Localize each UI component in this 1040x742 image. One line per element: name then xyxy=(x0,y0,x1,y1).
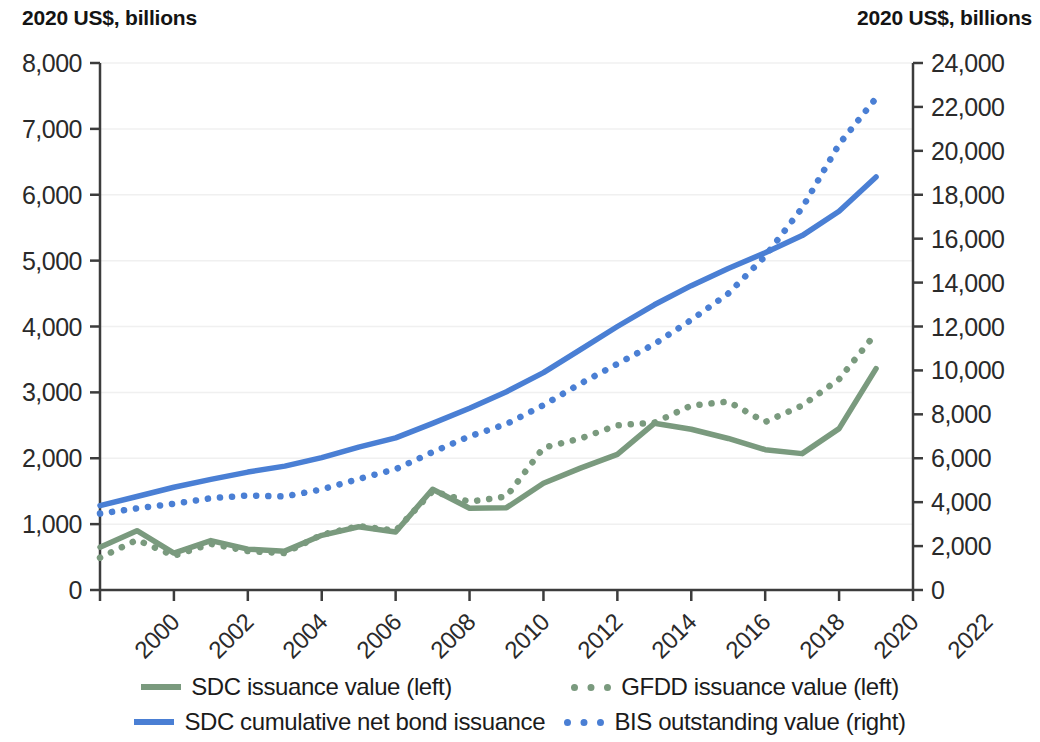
legend-row-2: SDC cumulative net bond issuance BIS out… xyxy=(134,708,905,736)
series-line-2 xyxy=(100,177,876,506)
series-lines xyxy=(100,98,876,558)
series-line-3 xyxy=(100,98,876,513)
legend-item-sdc-cumulative: SDC cumulative net bond issuance xyxy=(134,708,564,736)
legend-item-bis-outstanding: BIS outstanding value (right) xyxy=(564,708,905,736)
gridlines xyxy=(100,63,913,590)
plot-area xyxy=(0,0,1040,742)
legend-label-bis-outstanding: BIS outstanding value (right) xyxy=(614,708,905,736)
legend-swatch-gfdd-issuance xyxy=(571,684,611,691)
legend-label-sdc-issuance: SDC issuance value (left) xyxy=(191,673,452,701)
chart-legend: SDC issuance value (left) GFDD issuance … xyxy=(0,673,1040,736)
legend-item-sdc-issuance: SDC issuance value (left) xyxy=(141,673,571,701)
legend-item-gfdd-issuance: GFDD issuance value (left) xyxy=(571,673,899,701)
dual-axis-line-chart: 2020 US$, billions 2020 US$, billions 01… xyxy=(0,0,1040,742)
legend-swatch-bis-outstanding xyxy=(564,719,604,726)
legend-label-gfdd-issuance: GFDD issuance value (left) xyxy=(621,673,899,701)
legend-row-1: SDC issuance value (left) GFDD issuance … xyxy=(141,673,899,701)
legend-swatch-sdc-issuance xyxy=(141,684,181,690)
legend-label-sdc-cumulative: SDC cumulative net bond issuance xyxy=(184,708,545,736)
legend-swatch-sdc-cumulative xyxy=(134,719,174,725)
series-line-0 xyxy=(100,369,876,553)
axis-lines xyxy=(90,63,923,601)
